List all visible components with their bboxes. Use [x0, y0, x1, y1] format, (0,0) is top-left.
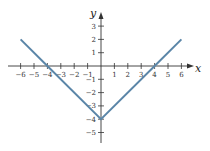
x-axis-label: x [195, 62, 202, 75]
y-tick-label: 3 [92, 23, 96, 31]
x-tick-label: −4 [42, 71, 53, 79]
x-tick-label: −2 [69, 71, 79, 79]
y-tick-label: −4 [86, 116, 97, 124]
x-tick-label: 4 [152, 71, 157, 79]
x-tick-label: 5 [166, 71, 170, 79]
ticks: −6−5−4−3−2−1123456−5−4−3−2−1123 [15, 23, 184, 137]
x-tick-label: 6 [179, 71, 184, 79]
chart: −6−5−4−3−2−1123456−5−4−3−2−1123 x y [0, 0, 210, 151]
x-tick-label: −5 [29, 71, 39, 79]
y-tick-label: 1 [92, 49, 96, 57]
x-tick-label: 1 [112, 71, 116, 79]
y-tick-label: −5 [86, 129, 96, 137]
y-axis-arrow-icon [99, 12, 104, 19]
y-tick-label: −2 [86, 89, 96, 97]
x-axis-arrow-icon [187, 64, 194, 69]
y-axis-label: y [89, 7, 97, 20]
x-tick-label: 2 [126, 71, 130, 79]
y-tick-label: 2 [92, 36, 96, 44]
x-tick-label: −6 [15, 71, 26, 79]
y-tick-label: −1 [86, 76, 96, 84]
